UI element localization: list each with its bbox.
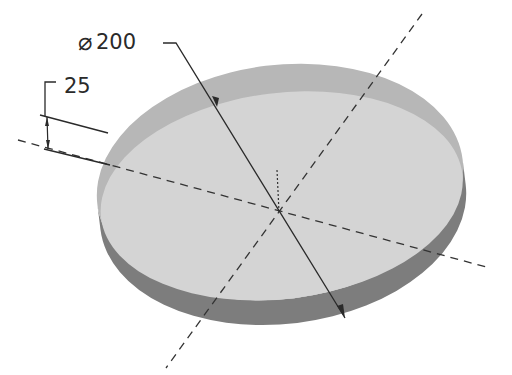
diameter-symbol: ⌀: [78, 30, 92, 54]
thickness-extension-top: [40, 115, 108, 133]
disc-body: [83, 43, 480, 345]
disc-drawing: [0, 0, 512, 375]
thickness-arrow-top-icon: [45, 117, 49, 126]
diameter-label: ⌀ 200: [78, 30, 136, 54]
thickness-label: 25: [64, 76, 91, 97]
diameter-value: 200: [96, 32, 136, 53]
thickness-leader: [45, 82, 56, 116]
thickness-extension-bottom: [44, 149, 110, 165]
